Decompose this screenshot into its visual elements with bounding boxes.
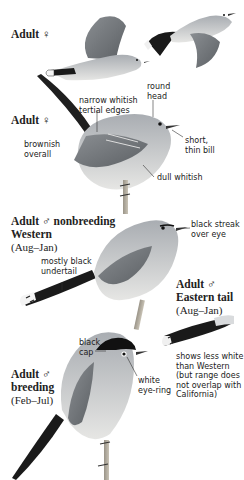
eastern-tail bbox=[162, 315, 234, 346]
annotation-white-eye-ring: whiteeye-ring bbox=[138, 376, 171, 395]
bird-flight-right bbox=[144, 13, 236, 68]
annotation-black-cap: blackcap bbox=[79, 338, 100, 357]
figure-title-eastern-tail: Adult ♂ Eastern tail (Aug–Jan) bbox=[176, 278, 233, 317]
annotation-short-thin-bill: short,thin bill bbox=[185, 136, 215, 155]
bird-flight-left bbox=[46, 16, 150, 80]
annotation-black-streak-over-eye: black streakover eye bbox=[191, 220, 240, 239]
annotation-tertial-edges: narrow whitishtertial edges bbox=[79, 96, 138, 115]
figure-title-adult-female-flight: Adult ♀ bbox=[11, 28, 51, 41]
annotation-eastern-tail-note: shows less white than Western (but range… bbox=[176, 352, 243, 400]
figure-title-adult-female-perched: Adult ♀ bbox=[11, 114, 51, 127]
figure-title-male-breeding: Adult ♂ breeding (Feb–Jul) bbox=[11, 368, 54, 407]
annotation-brownish-overall: brownishoverall bbox=[24, 140, 60, 159]
annotation-round-head: roundhead bbox=[147, 82, 170, 101]
annotation-dull-whitish: dull whitish bbox=[157, 173, 203, 183]
figure-title-male-nonbreeding: Adult ♂ nonbreeding Western (Aug–Jan) bbox=[11, 215, 115, 254]
field-guide-plate: Adult ♀ Adult ♀ roundhead narrow whitish… bbox=[0, 0, 244, 480]
annotation-mostly-black-undertail: mostly blackundertail bbox=[41, 257, 92, 276]
